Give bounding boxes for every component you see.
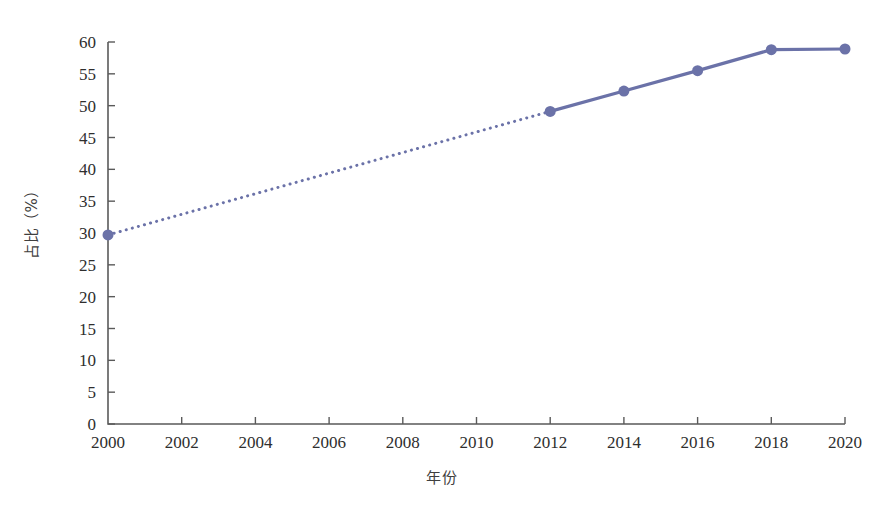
- data-point-marker: [766, 44, 777, 55]
- x-tick-label: 2012: [533, 433, 567, 452]
- data-point-marker: [103, 229, 114, 240]
- x-tick-label: 2016: [681, 433, 715, 452]
- series-line-dotted: [108, 111, 550, 235]
- y-tick-label: 15: [79, 320, 96, 339]
- x-tick-label: 2008: [386, 433, 420, 452]
- y-tick-label: 25: [79, 256, 96, 275]
- y-tick-label: 0: [88, 415, 97, 434]
- x-tick-label: 2010: [460, 433, 494, 452]
- x-tick-label: 2018: [754, 433, 788, 452]
- y-tick-label: 5: [88, 383, 97, 402]
- y-tick-label: 20: [79, 288, 96, 307]
- data-marker-layer: [103, 44, 851, 241]
- y-tick-label: 35: [79, 192, 96, 211]
- y-tick-label: 10: [79, 351, 96, 370]
- x-axis-title: 年份: [0, 466, 884, 487]
- x-tick-label: 2014: [607, 433, 642, 452]
- data-point-marker: [618, 86, 629, 97]
- data-series-layer: [108, 49, 845, 235]
- data-point-marker: [840, 44, 851, 55]
- series-line-solid: [550, 49, 845, 111]
- x-tick-label: 2020: [828, 433, 862, 452]
- y-tick-label: 50: [79, 97, 96, 116]
- x-tick-label: 2000: [91, 433, 125, 452]
- chart-figure: 占比（%） 051015202530354045505560 200020022…: [0, 0, 884, 510]
- x-tick-label: 2004: [238, 433, 273, 452]
- data-point-marker: [545, 106, 556, 117]
- axis-lines: [108, 42, 845, 424]
- data-point-marker: [692, 65, 703, 76]
- y-tick-label: 60: [79, 33, 96, 52]
- axes: [108, 42, 845, 424]
- y-tick-label: 55: [79, 65, 96, 84]
- x-tick-label: 2002: [165, 433, 199, 452]
- x-axis-ticks: 2000200220042006200820102012201420162018…: [91, 417, 862, 452]
- x-axis-title-label: 年份: [426, 469, 458, 487]
- y-tick-label: 40: [79, 160, 96, 179]
- x-tick-label: 2006: [312, 433, 346, 452]
- y-tick-label: 30: [79, 224, 96, 243]
- line-chart-plot: 051015202530354045505560 200020022004200…: [0, 0, 884, 510]
- y-tick-label: 45: [79, 129, 96, 148]
